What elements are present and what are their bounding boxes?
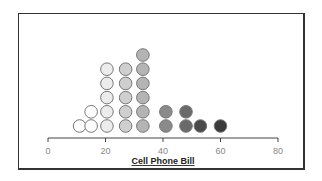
data-dot [119, 63, 132, 76]
data-dot [119, 106, 132, 119]
x-tick-label: 0 [45, 146, 50, 156]
data-dot [137, 120, 150, 133]
data-dot [180, 120, 193, 133]
x-tick-label: 60 [215, 146, 225, 156]
x-tick-label: 40 [158, 146, 168, 156]
data-dot [101, 77, 114, 90]
data-dot [137, 63, 150, 76]
data-dot [119, 77, 132, 90]
data-dot [160, 106, 173, 119]
data-dot [119, 91, 132, 104]
data-dot [101, 106, 114, 119]
data-dot [101, 120, 114, 133]
data-dot [160, 120, 173, 133]
data-dot [214, 120, 227, 133]
data-dot [85, 106, 98, 119]
data-dot [85, 120, 98, 133]
data-dot [137, 91, 150, 104]
x-tick-label: 20 [100, 146, 110, 156]
data-dot [137, 106, 150, 119]
dot-plot: 020406080 Cell Phone Bill [0, 0, 322, 181]
data-dot [194, 120, 207, 133]
dot-columns [73, 49, 226, 133]
data-dot [137, 49, 150, 62]
x-axis-label: Cell Phone Bill [131, 156, 194, 166]
data-dot [180, 106, 193, 119]
x-tick-label: 80 [273, 146, 283, 156]
data-dot [73, 120, 86, 133]
data-dot [101, 91, 114, 104]
data-dot [119, 120, 132, 133]
x-axis-ticks: 020406080 [45, 138, 283, 156]
data-dot [101, 63, 114, 76]
data-dot [137, 77, 150, 90]
